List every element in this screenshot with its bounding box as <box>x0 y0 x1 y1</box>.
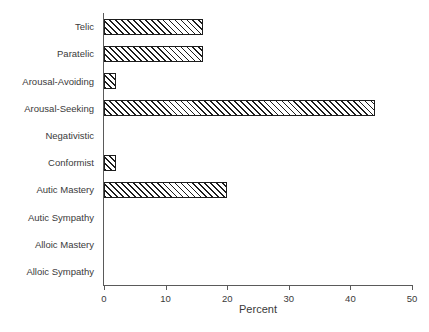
plot-area: 0 10 20 30 40 50 <box>104 13 412 285</box>
x-axis-tick <box>350 285 351 290</box>
x-axis-line <box>103 285 412 286</box>
category-axis-labels: Telic Paratelic Arousal-Avoiding Arousal… <box>0 13 99 285</box>
category-label: Conformist <box>0 157 94 168</box>
category-label: Negativistic <box>0 130 94 141</box>
category-label: Autic Sympathy <box>0 212 94 223</box>
bar-conformist <box>104 155 116 171</box>
x-axis-tick <box>289 285 290 290</box>
x-axis-title: Percent <box>104 303 412 315</box>
bar-autic-mastery <box>104 182 227 198</box>
category-label: Alloic Mastery <box>0 239 94 250</box>
bar-paratelic <box>104 46 203 62</box>
bar-arousal-avoiding <box>104 73 116 89</box>
category-label: Arousal-Seeking <box>0 103 94 114</box>
x-axis-tick <box>227 285 228 290</box>
category-label: Alloic Sympathy <box>0 266 94 277</box>
bar-arousal-seeking <box>104 100 375 116</box>
x-axis-tick <box>104 285 105 290</box>
category-label: Arousal-Avoiding <box>0 76 94 87</box>
category-label: Paratelic <box>0 48 94 59</box>
bar-telic <box>104 19 203 35</box>
category-label: Telic <box>0 21 94 32</box>
bar-chart: Telic Paratelic Arousal-Avoiding Arousal… <box>0 0 429 332</box>
x-axis-tick <box>166 285 167 290</box>
x-axis-tick <box>412 285 413 290</box>
category-label: Autic Mastery <box>0 184 94 195</box>
